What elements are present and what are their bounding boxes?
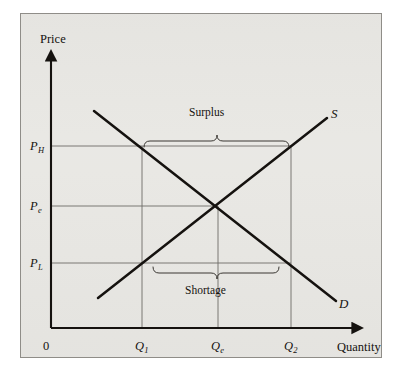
quantity-tick-q2-sub: 2 xyxy=(293,345,297,355)
surplus-label: Surplus xyxy=(189,107,224,119)
surplus-bracket xyxy=(144,135,289,147)
price-tick-pl: PL xyxy=(30,257,42,270)
demand-curve-label: D xyxy=(339,297,348,310)
quantity-tick-q1-sub: 1 xyxy=(144,345,148,355)
supply-curve xyxy=(98,118,327,298)
price-tick-ph-base: P xyxy=(30,139,38,153)
shortage-bracket xyxy=(153,267,279,279)
quantity-tick-q1: Q1 xyxy=(135,340,148,353)
price-tick-pe-base: P xyxy=(30,199,38,213)
quantity-tick-q2: Q2 xyxy=(284,340,297,353)
price-tick-ph: PH xyxy=(30,140,44,153)
figure-root: Price Quantity 0 PH Pe PL Q1 Qe Q2 S D S… xyxy=(0,0,398,373)
price-gridlines xyxy=(51,146,291,263)
quantity-tick-qe-sub: e xyxy=(220,345,224,355)
supply-curve-label: S xyxy=(331,107,338,120)
price-tick-pl-base: P xyxy=(30,256,38,270)
quantity-tick-qe: Qe xyxy=(211,340,224,353)
quantity-tick-q1-base: Q xyxy=(135,339,144,353)
quantity-tick-q2-base: Q xyxy=(284,339,293,353)
price-tick-ph-sub: H xyxy=(38,145,44,155)
x-axis-title: Quantity xyxy=(337,341,381,354)
supply-demand-plot xyxy=(21,14,381,357)
shortage-label: Shortage xyxy=(185,285,226,297)
y-axis-title: Price xyxy=(40,33,66,46)
price-tick-pe: Pe xyxy=(30,200,41,213)
quantity-tick-qe-base: Q xyxy=(211,339,220,353)
origin-label: 0 xyxy=(43,340,49,353)
price-tick-pl-sub: L xyxy=(38,262,43,272)
figure-frame: Price Quantity 0 PH Pe PL Q1 Qe Q2 S D S… xyxy=(20,13,382,358)
quantity-gridlines xyxy=(142,146,291,328)
price-tick-pe-sub: e xyxy=(38,205,42,215)
